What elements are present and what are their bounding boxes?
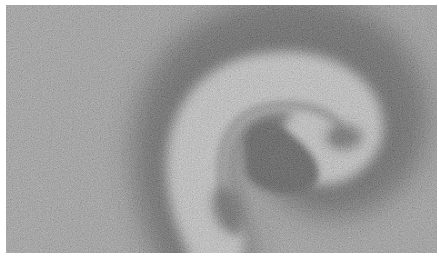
grayscale-image xyxy=(6,5,437,253)
noise-texture xyxy=(6,5,437,253)
spiral-pattern-figure xyxy=(6,5,437,253)
